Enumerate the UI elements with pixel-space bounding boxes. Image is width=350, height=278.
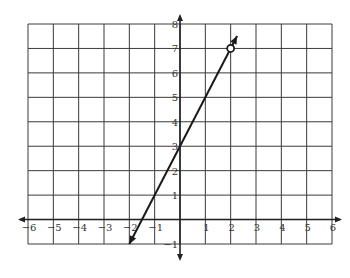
x-tick-label: 1 <box>203 222 209 233</box>
y-tick-label: 5 <box>172 92 178 103</box>
y-axis-down-arrow-icon <box>177 254 183 261</box>
y-tick-label: −1 <box>163 239 178 250</box>
y-tick-label: 2 <box>172 166 178 177</box>
x-tick-label: 4 <box>279 222 285 233</box>
x-tick-label: 3 <box>254 222 260 233</box>
axes <box>18 14 342 261</box>
graph-line <box>129 36 237 244</box>
x-tick-label: −5 <box>47 222 62 233</box>
open-circle-marker <box>227 45 234 52</box>
x-tick-label: −4 <box>72 222 87 233</box>
y-tick-label: 1 <box>172 190 178 201</box>
line-series <box>129 36 237 244</box>
x-tick-label: −1 <box>148 222 163 233</box>
x-tick-label: 5 <box>304 222 310 233</box>
y-tick-label: 6 <box>172 68 178 79</box>
coordinate-graph: −6−5−4−3−2−1123456−112345678 <box>0 0 350 278</box>
y-tick-label: 8 <box>172 19 178 30</box>
x-tick-label: −3 <box>98 222 113 233</box>
x-tick-label: 6 <box>330 222 336 233</box>
x-tick-label: 2 <box>228 222 234 233</box>
x-tick-label: −6 <box>22 222 37 233</box>
y-tick-label: 4 <box>172 117 178 128</box>
y-tick-label: 7 <box>172 43 178 54</box>
tick-labels: −6−5−4−3−2−1123456−112345678 <box>22 19 337 250</box>
